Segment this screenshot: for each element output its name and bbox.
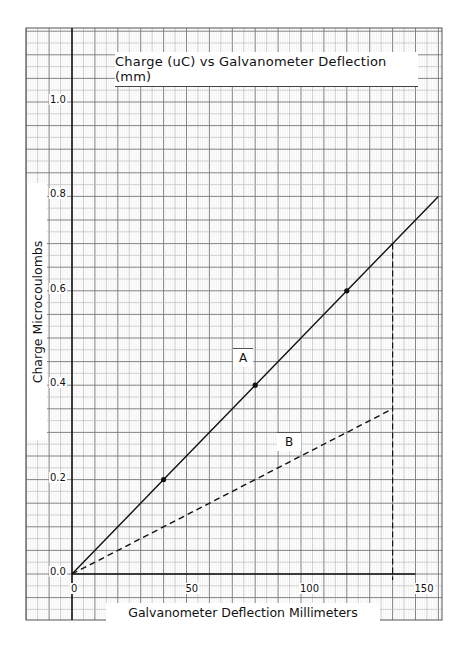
series-label-b: B — [277, 432, 301, 451]
graph-paper-grid — [26, 28, 442, 620]
y-axis-label: Charge Microcoulombs — [27, 183, 47, 440]
y-tick-label: 0.0 — [49, 566, 67, 577]
x-axis-label: Galvanometer Deflection Millimeters — [106, 603, 380, 621]
x-tick-label: 50 — [185, 583, 200, 594]
chart-title-text: Charge (uC) vs Galvanometer Deflection (… — [115, 54, 418, 84]
chart-title: Charge (uC) vs Galvanometer Deflection (… — [115, 52, 418, 87]
x-tick-label: 0 — [70, 583, 78, 594]
x-axis-label-text: Galvanometer Deflection Millimeters — [128, 605, 357, 620]
y-tick-label: 0.4 — [49, 377, 67, 388]
y-tick-label: 0.2 — [49, 472, 67, 483]
y-tick-label: 0.8 — [49, 188, 67, 199]
y-tick-label: 0.6 — [49, 283, 67, 294]
series-label-a: A — [233, 348, 253, 367]
x-tick-label: 100 — [299, 583, 320, 594]
y-axis-label-text: Charge Microcoulombs — [30, 240, 45, 383]
y-tick-label: 1.0 — [49, 94, 67, 105]
x-tick-label: 150 — [414, 583, 435, 594]
chart-canvas — [0, 0, 466, 648]
